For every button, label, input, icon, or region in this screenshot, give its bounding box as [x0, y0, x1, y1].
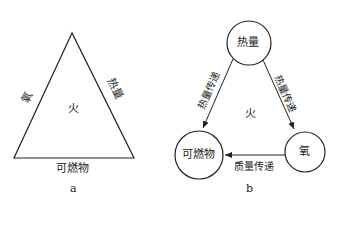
- node-oxygen-label: 氧: [299, 146, 310, 157]
- label-fire-center-b: 火: [245, 108, 256, 119]
- node-heat-label: 热量: [237, 37, 259, 48]
- label-fuel-bottom: 可燃物: [56, 163, 89, 174]
- caption-a: a: [70, 183, 77, 194]
- node-fuel-label: 可燃物: [182, 149, 215, 160]
- edge-bottom-mass-transfer: 质量传递: [234, 162, 274, 172]
- label-fire-center-a: 火: [68, 103, 79, 114]
- caption-b: b: [246, 183, 253, 194]
